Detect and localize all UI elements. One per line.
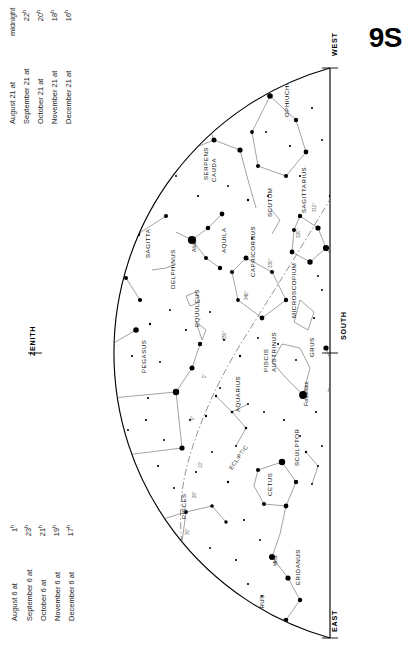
svg-text:VULPECULA: VULPECULA: [146, 161, 153, 203]
star-chart-page: 9S August 21 atmidnight September 21 at2…: [0, 0, 414, 660]
svg-text:30°: 30°: [185, 528, 190, 535]
svg-text:SERPENS: SERPENS: [202, 147, 209, 180]
svg-text:PEGASUS: PEGASUS: [140, 340, 147, 373]
star-field: [39, 93, 336, 641]
svg-text:TRIANGULUM: TRIANGULUM: [134, 501, 141, 547]
ecliptic-line: [181, 196, 332, 655]
svg-text:350°: 350°: [222, 330, 227, 340]
svg-text:HERCULES: HERCULES: [166, 90, 173, 128]
svg-text:50°: 50°: [195, 603, 200, 610]
svg-text:CAPRICORNUS: CAPRICORNUS: [249, 226, 256, 277]
svg-text:Deneb: Deneb: [51, 257, 57, 272]
svg-text:Fomalhaut: Fomalhaut: [303, 381, 309, 406]
ecliptic-label: ECLIPTIC: [228, 444, 249, 471]
svg-text:SAGITTA: SAGITTA: [144, 228, 151, 258]
star-deneb: [59, 258, 67, 266]
svg-text:10°: 10°: [198, 461, 203, 468]
svg-text:CAUDA: CAUDA: [210, 158, 217, 182]
svg-text:AQUARIUS: AQUARIUS: [234, 376, 241, 412]
svg-text:ARIES: ARIES: [170, 545, 177, 566]
svg-text:Altair: Altair: [191, 240, 197, 252]
svg-text:AUSTRINUS: AUSTRINUS: [270, 332, 277, 372]
svg-text:0°: 0°: [202, 373, 207, 378]
svg-text:ERIDANUS: ERIDANUS: [294, 549, 301, 585]
svg-text:SCUTUM: SCUTUM: [266, 188, 273, 217]
svg-text:SAGITTARIUS: SAGITTARIUS: [300, 167, 307, 213]
svg-text:PISCIS: PISCIS: [262, 349, 269, 372]
svg-text:310°: 310°: [312, 202, 317, 212]
svg-text:CETUS: CETUS: [266, 473, 273, 496]
star-vega: [89, 168, 98, 177]
svg-text:330°: 330°: [268, 258, 273, 268]
svg-text:GRUS: GRUS: [308, 337, 315, 357]
svg-text:40°: 40°: [190, 565, 195, 572]
svg-text:LYRA: LYRA: [128, 178, 135, 196]
svg-text:Mira: Mira: [272, 556, 278, 566]
svg-text:AQUILA: AQUILA: [220, 227, 227, 253]
svg-text:EQUULEUS: EQUULEUS: [193, 289, 200, 327]
svg-text:320°: 320°: [296, 228, 301, 238]
svg-text:Vega: Vega: [84, 155, 96, 168]
svg-text:OPHIUCHUS: OPHIUCHUS: [283, 75, 290, 117]
svg-text:CYGNUS: CYGNUS: [74, 217, 81, 246]
constellation-lines: [48, 96, 336, 630]
svg-text:MICROSCOPIUM: MICROSCOPIUM: [290, 263, 297, 318]
svg-text:SCULPTOR: SCULPTOR: [293, 428, 300, 466]
constellation-labels: HERCULES OPHIUCHUS SERPENS CAUDA LYRA VU…: [54, 75, 315, 622]
svg-text:DELPHINUS: DELPHINUS: [169, 249, 176, 289]
svg-text:PISCES: PISCES: [180, 493, 187, 519]
svg-text:340°: 340°: [244, 290, 249, 300]
svg-text:ANDROMEDA: ANDROMEDA: [87, 392, 94, 437]
sky-map: 310° 320° 330° 340° 350° 0° 0° 10° 20° 3…: [0, 0, 414, 660]
svg-text:20°: 20°: [192, 491, 197, 498]
svg-text:LACERTA: LACERTA: [54, 311, 61, 343]
